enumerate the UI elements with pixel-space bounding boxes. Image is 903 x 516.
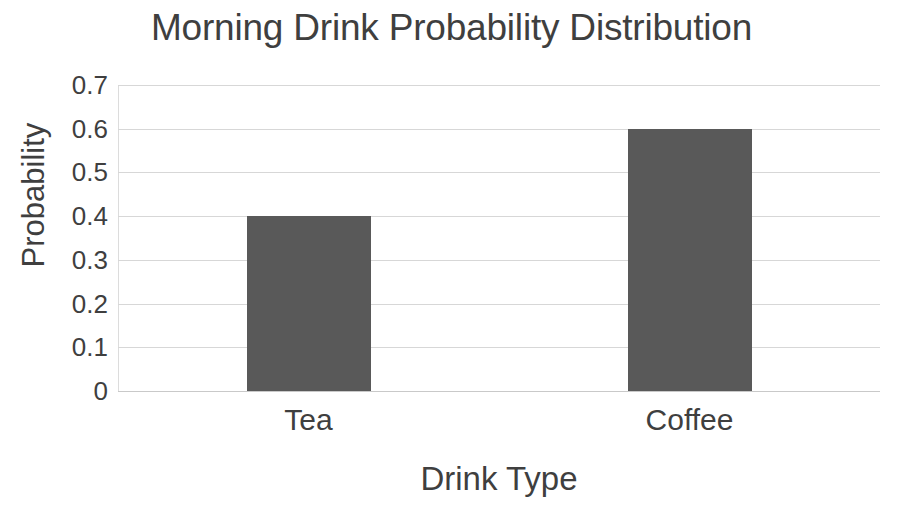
y-axis-tick-label: 0 bbox=[8, 378, 108, 404]
y-axis-tick-label: 0.5 bbox=[8, 159, 108, 185]
gridline bbox=[118, 129, 880, 130]
plot-area bbox=[118, 85, 880, 391]
y-axis-tick-label: 0.4 bbox=[8, 203, 108, 229]
x-axis-tick-labels: TeaCoffee bbox=[118, 398, 880, 448]
y-axis-tick-label: 0.2 bbox=[8, 291, 108, 317]
y-axis-tick-label: 0.3 bbox=[8, 247, 108, 273]
gridline bbox=[118, 304, 880, 305]
x-axis-tick-label: Tea bbox=[118, 398, 499, 442]
x-axis-tick-label: Coffee bbox=[499, 398, 880, 442]
gridline bbox=[118, 85, 880, 86]
x-axis-title: Drink Type bbox=[118, 457, 880, 501]
bar-coffee[interactable] bbox=[628, 129, 752, 391]
y-axis-tick-label: 0.6 bbox=[8, 116, 108, 142]
bar-chart: Morning Drink Probability Distribution P… bbox=[0, 0, 903, 516]
gridline bbox=[118, 216, 880, 217]
y-axis-tick-label: 0.7 bbox=[8, 72, 108, 98]
gridline bbox=[118, 260, 880, 261]
gridline bbox=[118, 391, 880, 392]
y-axis-tick-labels: 00.10.20.30.40.50.60.7 bbox=[0, 85, 108, 391]
y-axis-tick-label: 0.1 bbox=[8, 334, 108, 360]
gridline bbox=[118, 347, 880, 348]
bar-tea[interactable] bbox=[247, 216, 371, 391]
chart-title: Morning Drink Probability Distribution bbox=[0, 2, 903, 54]
gridline bbox=[118, 172, 880, 173]
